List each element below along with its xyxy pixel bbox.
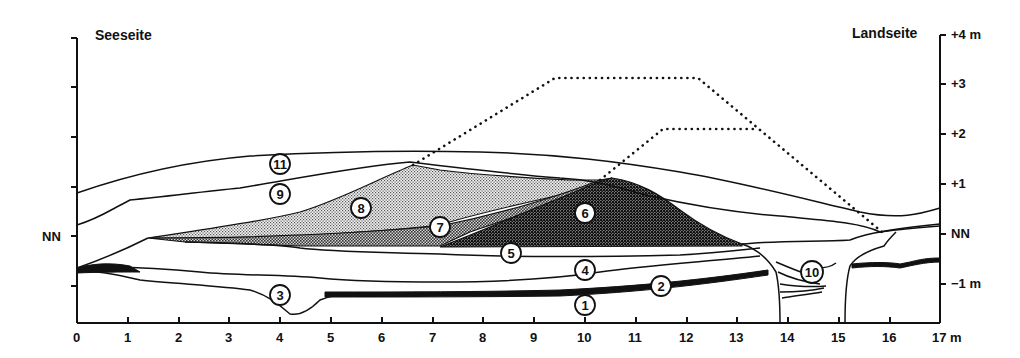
- right-tick-nn: NN: [951, 226, 970, 241]
- svg-text:14: 14: [780, 330, 795, 345]
- ditch-wall-right: [845, 232, 896, 323]
- svg-text:11: 11: [273, 157, 287, 172]
- layer-label-4: 4: [575, 260, 595, 280]
- svg-text:17 m: 17 m: [932, 330, 962, 345]
- svg-text:13: 13: [729, 330, 743, 345]
- svg-text:6: 6: [378, 330, 385, 345]
- layer-label-2: 2: [651, 276, 671, 296]
- layer-label-1: 1: [575, 295, 595, 315]
- svg-text:10: 10: [577, 330, 591, 345]
- x-axis: [77, 317, 940, 323]
- right-tick-plus1: +1: [951, 176, 966, 191]
- layer-label-11: 11: [270, 154, 290, 174]
- right-tick-minus1: −1 m: [951, 276, 981, 291]
- svg-text:1: 1: [124, 330, 131, 345]
- layer-2-band-main: [325, 270, 768, 297]
- layer-label-5: 5: [501, 243, 521, 263]
- svg-text:7: 7: [436, 220, 443, 235]
- svg-text:5: 5: [507, 246, 514, 261]
- left-axis: [71, 38, 77, 323]
- x-axis-labels: 0 1 2 3 4 5 6 7 8 9 10 11 12 13 14 15 16…: [73, 330, 962, 345]
- title-landside: Landseite: [852, 25, 918, 41]
- svg-text:12: 12: [679, 330, 693, 345]
- svg-text:9: 9: [530, 330, 537, 345]
- svg-text:6: 6: [581, 206, 588, 221]
- stratigraphic-cross-section: Seeseite Landseite NN +4 m +3 +2 +1 NN −…: [0, 0, 1020, 358]
- svg-text:8: 8: [479, 330, 486, 345]
- layer-nn-surface-line: [742, 226, 940, 244]
- svg-text:16: 16: [882, 330, 896, 345]
- svg-text:5: 5: [327, 330, 334, 345]
- layer-label-7: 7: [430, 217, 450, 237]
- layer-2-band-land: [852, 258, 940, 268]
- right-axis: [940, 35, 946, 323]
- svg-text:4: 4: [581, 263, 589, 278]
- svg-text:15: 15: [831, 330, 845, 345]
- right-tick-plus3: +3: [951, 76, 966, 91]
- left-axis-nn-label: NN: [42, 229, 61, 244]
- svg-text:0: 0: [73, 330, 80, 345]
- ditch-wall-left: [742, 244, 780, 323]
- svg-text:3: 3: [276, 288, 283, 303]
- layer-3-boundary-bottom: [77, 272, 350, 315]
- layer-label-9: 9: [270, 184, 290, 204]
- layer-label-8: 8: [351, 198, 371, 218]
- title-seaside: Seeseite: [95, 27, 152, 43]
- layer-label-3: 3: [270, 285, 290, 305]
- svg-text:3: 3: [225, 330, 232, 345]
- layer-label-6: 6: [575, 203, 595, 223]
- svg-text:7: 7: [429, 330, 436, 345]
- right-tick-plus2: +2: [951, 126, 966, 141]
- layer-label-10: 10: [801, 261, 823, 283]
- layer-2-band: [77, 264, 140, 273]
- right-tick-plus4: +4 m: [951, 27, 981, 42]
- svg-text:4: 4: [276, 330, 284, 345]
- svg-text:1: 1: [581, 298, 588, 313]
- svg-text:2: 2: [657, 279, 664, 294]
- svg-text:2: 2: [175, 330, 182, 345]
- svg-text:8: 8: [357, 201, 364, 216]
- svg-text:9: 9: [276, 187, 283, 202]
- svg-text:11: 11: [628, 330, 642, 345]
- svg-text:10: 10: [805, 265, 819, 280]
